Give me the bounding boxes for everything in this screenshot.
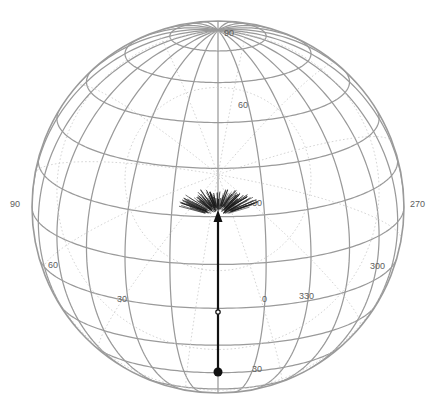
label-right-270: 270 (410, 200, 425, 209)
label-lon-330: 330 (299, 292, 314, 301)
label-lon-30: 30 (117, 295, 127, 304)
label-lat-30: 30 (252, 199, 262, 208)
label-lon-60: 60 (48, 261, 58, 270)
globe-canvas (0, 0, 442, 412)
label-lat-30-bottom: 30 (252, 365, 262, 374)
label-lat-60: 60 (238, 101, 248, 110)
label-lon-0: 0 (262, 295, 267, 304)
label-lon-300: 300 (370, 262, 385, 271)
vector-overlay (179, 190, 257, 377)
label-pole-90: 90 (224, 29, 234, 38)
label-left-90: 90 (10, 200, 20, 209)
globe-figure: 90 90 270 60 30 60 30 0 330 300 30 (0, 0, 442, 412)
